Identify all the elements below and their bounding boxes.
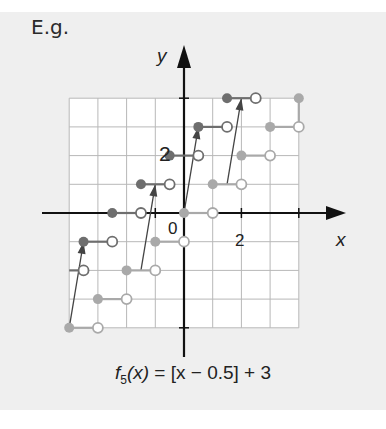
- light-series-open-point: [93, 323, 103, 333]
- light-series-closed-point: [208, 179, 218, 189]
- dark-series-closed-point: [193, 122, 203, 132]
- light-series-closed-point: [93, 294, 103, 304]
- function-caption: f5(x) = [x − 0.5] + 3: [0, 362, 386, 387]
- caption-rest: = [x − 0.5] + 3: [149, 362, 271, 383]
- x-tick-label: 2: [235, 231, 244, 250]
- light-series-open-point: [236, 179, 246, 189]
- dark-series-closed-point: [107, 208, 117, 218]
- light-series-open-point: [265, 151, 275, 161]
- x-axis-arrowhead: [326, 206, 346, 220]
- light-series-closed-point: [150, 237, 160, 247]
- dark-series-open-point: [193, 151, 203, 161]
- dark-series-closed-point: [222, 93, 232, 103]
- light-series-closed-point: [122, 265, 132, 275]
- origin-label: 0: [168, 219, 177, 238]
- dark-series-open-point: [222, 122, 232, 132]
- light-series-open-point: [150, 265, 160, 275]
- dark-series-open-point: [251, 93, 261, 103]
- light-series-closed-point: [179, 208, 189, 218]
- light-series-closed-point: [265, 122, 275, 132]
- light-series-closed-point: [294, 93, 304, 103]
- light-series-open-point: [122, 294, 132, 304]
- x-axis-label: x: [335, 229, 347, 250]
- dark-series-open-point: [107, 237, 117, 247]
- dark-series-open-point: [79, 265, 89, 275]
- light-series-closed-point: [64, 323, 74, 333]
- dark-series-closed-point: [136, 179, 146, 189]
- light-series-open-point: [208, 208, 218, 218]
- dark-series-open-point: [165, 179, 175, 189]
- dark-series-closed-point: [79, 237, 89, 247]
- caption-arg: (x): [127, 362, 149, 383]
- light-series-open-point: [179, 237, 189, 247]
- y-axis-arrowhead: [177, 45, 191, 68]
- page: E.g. y x 0 2 2 f5(x) = [x − 0.5] + 3: [0, 0, 386, 429]
- y-axis-label: y: [155, 45, 168, 66]
- dark-series-open-point: [136, 208, 146, 218]
- y-tick-label: 2: [159, 142, 171, 165]
- caption-sub: 5: [120, 373, 127, 387]
- light-series-open-point: [294, 122, 304, 132]
- light-series-closed-point: [236, 151, 246, 161]
